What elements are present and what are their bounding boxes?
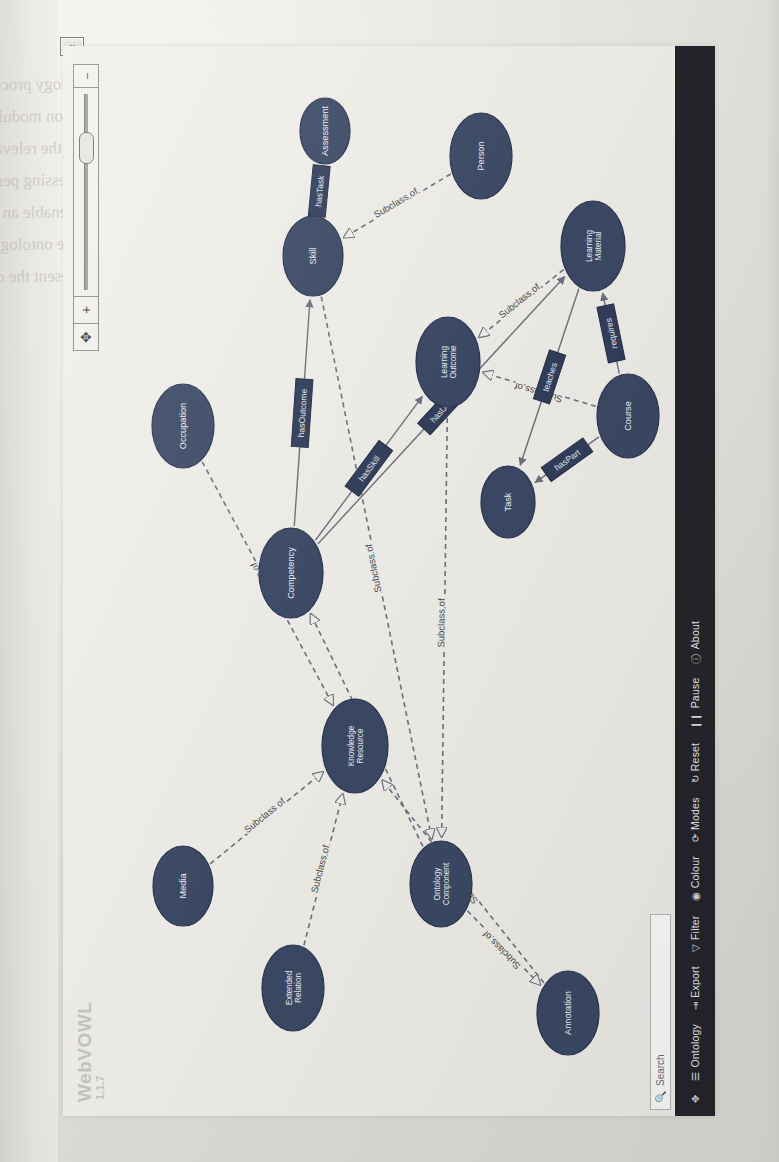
ontology-icon: ☰ <box>690 1072 701 1081</box>
toolbar-item-about[interactable]: ⓘAbout <box>683 614 708 671</box>
ontology-graph[interactable]: Subclass ofSubclass ofSubclass ofSubclas… <box>63 46 675 1116</box>
toolbar-item-filter[interactable]: ▽Filter <box>684 908 706 959</box>
class-node[interactable]: Task <box>481 466 535 538</box>
toolbar-item-pause[interactable]: ❙❙Pause <box>684 671 706 736</box>
toolbar-item-label: Modes <box>689 797 701 830</box>
class-node-label: Occupation <box>178 403 188 449</box>
class-node-label: Skill <box>308 248 318 265</box>
class-node-label: Knowledge <box>347 725 356 766</box>
class-node[interactable]: KnowledgeResource <box>322 699 388 793</box>
class-node-label: Task <box>503 492 513 511</box>
class-node-label: Learning <box>440 346 449 378</box>
subclass-edge-label: Subclass of <box>363 543 384 594</box>
toolbar-item-label: About <box>689 621 701 649</box>
graph-nodes: MediaExtendedRelationOntologyComponentAn… <box>152 98 659 1055</box>
class-node[interactable]: Assessment <box>300 98 350 164</box>
object-property-box[interactable]: hasPart <box>541 438 593 482</box>
class-node[interactable]: Media <box>153 846 213 926</box>
class-node[interactable]: OntologyComponent <box>410 841 472 927</box>
subclass-edge-label: Subclass of <box>497 281 543 320</box>
class-node-label: Extended <box>285 970 294 1005</box>
toolbar-item-label: Ontology <box>689 1024 701 1068</box>
toolbar-item-pan-icon[interactable]: ✥ <box>685 1088 706 1110</box>
class-node-label: Media <box>178 873 188 899</box>
toolbar-item-label: Pause <box>689 678 701 709</box>
toolbar-item-modes[interactable]: ⟳Modes <box>684 790 706 849</box>
class-node[interactable]: ExtendedRelation <box>262 945 324 1031</box>
toolbar-item-export[interactable]: ⇥Export <box>684 959 706 1017</box>
class-node-label: Assessment <box>320 106 330 156</box>
class-node[interactable]: Skill <box>283 216 343 296</box>
subclass-edge-label: Subclass of <box>372 185 420 220</box>
class-node-label: Relation <box>294 973 303 1003</box>
page-right-edge <box>765 0 779 1162</box>
object-property-box[interactable]: hasOutcome <box>291 379 313 448</box>
pause-icon: ❙❙ <box>690 712 701 728</box>
modes-icon: ⟳ <box>690 834 701 842</box>
search-icon: 🔍 <box>655 1091 666 1103</box>
toolbar-item-colour[interactable]: ◉Colour <box>684 849 706 908</box>
search-placeholder: Search <box>655 1054 666 1086</box>
toolbar-item-label: Export <box>689 966 701 998</box>
about-icon: ⓘ <box>688 653 703 663</box>
class-node[interactable]: LearningMaterial <box>561 201 625 291</box>
colour-icon: ◉ <box>690 892 701 901</box>
object-property-box[interactable]: requires <box>597 304 625 363</box>
class-node-label: Material <box>594 231 603 260</box>
class-node[interactable]: Annotation <box>537 971 599 1055</box>
webvowl-screenshot: WebVOWL 1.1.7 ✥ + – Subclass ofSubclass … <box>63 46 715 1116</box>
class-node[interactable]: Occupation <box>152 384 214 468</box>
toolbar-item-label: Filter <box>689 915 701 940</box>
toolbar-item-ontology[interactable]: ☰Ontology <box>684 1017 706 1088</box>
subclass-edge-label: Subclass of <box>308 843 331 894</box>
export-icon: ⇥ <box>690 1002 701 1010</box>
class-node-label: Resource <box>356 728 365 763</box>
class-node-label: Ontology <box>433 867 442 901</box>
class-node-label: Outcome <box>449 345 458 379</box>
class-node[interactable]: Competency <box>259 528 323 618</box>
toolbar-item-label: Reset <box>689 743 701 771</box>
subclass-edge-label: Subclass of <box>242 795 287 835</box>
subclass-edge-label: Subclass of <box>480 929 523 972</box>
subclass-edge-label: Subclass of <box>435 598 447 648</box>
webvowl-app: WebVOWL 1.1.7 ✥ + – Subclass ofSubclass … <box>63 46 715 1116</box>
reset-icon: ↻ <box>690 775 701 783</box>
class-node-label: Learning <box>585 230 594 262</box>
class-node-label: Course <box>623 401 633 431</box>
class-node-label: Component <box>442 862 451 905</box>
class-node-label: Competency <box>286 547 296 599</box>
graph-canvas[interactable]: Subclass ofSubclass ofSubclass ofSubclas… <box>63 46 675 1116</box>
class-node[interactable]: Person <box>450 113 512 199</box>
class-node-label: Annotation <box>563 991 573 1035</box>
webvowl-toolbar[interactable]: ✥☰Ontology⇥Export▽Filter◉Colour⟳Modes↻Re… <box>675 46 715 1116</box>
class-node-label: Person <box>476 141 486 170</box>
photographed-page: ontology processing. These data now beco… <box>0 0 779 1162</box>
class-node[interactable]: Course <box>597 374 659 458</box>
toolbar-item-label: Colour <box>689 856 701 888</box>
search-input[interactable]: 🔍 Search <box>650 914 671 1110</box>
filter-icon: ▽ <box>690 944 701 952</box>
pan-icon-icon: ✥ <box>690 1095 701 1103</box>
class-node[interactable]: LearningOutcome <box>416 317 480 407</box>
toolbar-item-reset[interactable]: ↻Reset <box>684 736 706 791</box>
